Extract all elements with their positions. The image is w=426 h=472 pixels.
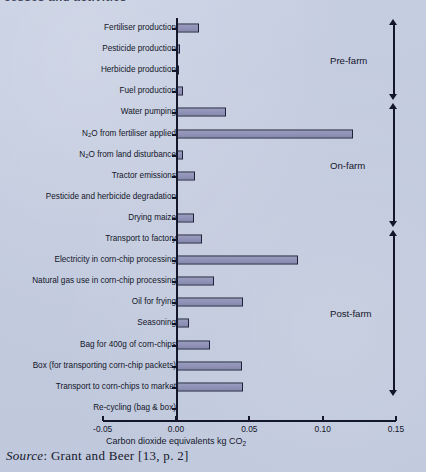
category-label: Transport to factory — [105, 235, 176, 243]
arrow-head-down — [389, 94, 397, 100]
stage-group-bracket: Post-farm — [330, 231, 426, 395]
category-label: N2O from land disturbance — [79, 150, 176, 158]
x-axis-tick-label: 0.10 — [315, 424, 331, 434]
subscript: 2 — [85, 153, 88, 159]
category-label: Seasoning — [137, 319, 176, 327]
stage-group-label: Pre-farm — [330, 54, 367, 65]
x-axis-tick — [322, 416, 324, 421]
arrow-shaft — [393, 24, 395, 95]
arrow-head-down — [389, 390, 397, 396]
category-label: Water pumping — [121, 108, 176, 116]
category-label: Oil for frying — [132, 298, 176, 306]
bar — [176, 129, 353, 138]
double-arrow-icon — [388, 231, 400, 395]
category-label: Pesticide and herbicide degradation — [46, 193, 176, 201]
category-label: N2O from fertiliser applied — [82, 129, 176, 137]
y-axis-line — [176, 18, 178, 420]
category-label: Fertiliser production — [104, 24, 176, 32]
double-arrow-icon — [388, 104, 400, 226]
arrow-head-up — [389, 230, 397, 236]
subscript: 2 — [242, 440, 246, 447]
category-label: Fuel production — [120, 87, 176, 95]
clipped-heading-strip: cesses and activities — [0, 0, 426, 10]
subscript: 2 — [88, 132, 91, 138]
co2-emissions-bar-chart: Fertiliser productionPesticide productio… — [0, 12, 426, 432]
arrow-shaft — [393, 235, 395, 391]
double-arrow-icon — [388, 20, 400, 99]
bar — [176, 382, 243, 391]
x-axis-tick — [395, 416, 397, 421]
source-label: Source — [6, 448, 43, 463]
category-label: Transport to corn-chips to market — [56, 383, 176, 391]
stage-group-label: Post-farm — [330, 307, 372, 318]
bar — [176, 340, 210, 349]
source-citation: Source: Grant and Beer [13, p. 2] — [6, 448, 189, 464]
category-label: Drying maize — [128, 214, 176, 222]
x-axis-tick — [175, 416, 177, 421]
chart-row: Re-cycling (bag & box) — [0, 398, 426, 418]
stage-group-label: On-farm — [330, 160, 365, 171]
x-axis-tick-label: 0.00 — [168, 424, 184, 434]
bar — [176, 256, 298, 265]
category-label: Tractor emissions — [112, 172, 176, 180]
x-axis-title: Carbon dioxide equivalents kg CO2 — [106, 436, 246, 446]
bar — [176, 277, 214, 286]
category-label: Re-cycling (bag & box) — [93, 404, 176, 412]
plot-area: Fertiliser productionPesticide productio… — [0, 12, 426, 412]
bar — [176, 235, 202, 244]
x-axis-tick — [248, 416, 250, 421]
stage-group-bracket: Pre-farm — [330, 20, 426, 99]
category-label: Box (for transporting corn-chip packets) — [33, 361, 176, 369]
category-label: Electricity in corn-chip processing — [55, 256, 177, 264]
arrow-head-up — [389, 19, 397, 25]
bar — [176, 171, 195, 180]
bar — [176, 213, 194, 222]
bar — [176, 361, 242, 370]
category-label: Natural gas use in corn-chip processing — [32, 277, 176, 285]
x-axis-tick — [102, 416, 104, 421]
source-reference: : Grant and Beer [13, p. 2] — [43, 448, 188, 463]
arrow-shaft — [393, 108, 395, 222]
stage-group-bracket: On-farm — [330, 104, 426, 226]
x-axis-tick-label: -0.05 — [93, 424, 112, 434]
category-label: Herbicide production — [101, 66, 176, 74]
x-axis-tick-label: 0.15 — [388, 424, 404, 434]
x-axis-tick-label: 0.05 — [241, 424, 257, 434]
bar — [176, 108, 226, 117]
arrow-head-up — [389, 103, 397, 109]
arrow-head-down — [389, 221, 397, 227]
clipped-heading-text: cesses and activities — [4, 0, 127, 3]
bar — [176, 298, 243, 307]
bar — [176, 24, 199, 33]
category-label: Bag for 400g of corn-chips — [80, 340, 176, 348]
category-label: Pesticide production — [102, 45, 176, 53]
